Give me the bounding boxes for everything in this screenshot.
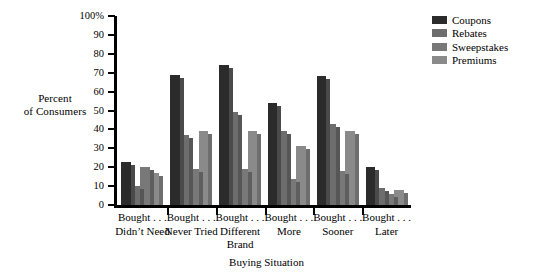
- bar: [219, 65, 229, 205]
- legend-swatch: [432, 16, 447, 24]
- y-axis-title-line2: of Consumers: [12, 105, 98, 118]
- legend-swatch: [432, 43, 447, 51]
- legend-label: Premiums: [452, 54, 497, 66]
- bar-chart: Percent of Consumers 0102030405060708090…: [0, 0, 533, 277]
- bar-side-face: [248, 172, 252, 205]
- y-axis-title-line1: Percent: [12, 92, 98, 105]
- bar-side-face: [229, 68, 233, 205]
- bar-side-face: [277, 106, 281, 205]
- bar-side-face: [394, 197, 398, 205]
- bar-side-face: [404, 193, 408, 205]
- bar: [366, 167, 376, 205]
- bar-group: [313, 16, 362, 205]
- bar-side-face: [345, 174, 349, 205]
- bar-side-face: [238, 115, 242, 205]
- y-axis-tick-label: 10: [94, 181, 105, 191]
- y-axis-tick-label: 90: [94, 30, 105, 40]
- bar-side-face: [375, 170, 379, 205]
- y-axis-title: Percent of Consumers: [12, 92, 98, 118]
- y-axis-tick-mark: [108, 185, 115, 187]
- legend-item: Coupons: [432, 13, 508, 27]
- bar-side-face: [199, 172, 203, 205]
- y-axis-tick-mark: [108, 34, 115, 36]
- x-axis-category-label-line: Bought . . .: [353, 211, 420, 225]
- bar: [317, 76, 327, 205]
- y-axis-tick-label: 100%: [80, 11, 105, 21]
- bar-side-face: [208, 134, 212, 205]
- bar-side-face: [355, 134, 359, 205]
- bar-side-face: [150, 170, 154, 205]
- plot-area: 0102030405060708090100%: [118, 16, 411, 205]
- bar-front-face: [121, 162, 131, 205]
- bar-side-face: [159, 176, 163, 205]
- legend-label: Rebates: [452, 27, 487, 39]
- bar-front-face: [317, 76, 327, 205]
- y-axis-tick-label: 60: [94, 87, 105, 97]
- bar-side-face: [257, 134, 261, 205]
- legend-label: Coupons: [452, 14, 491, 26]
- x-axis-category-label-line: Later: [353, 225, 420, 239]
- bar-group: [265, 16, 314, 205]
- bar: [121, 162, 131, 205]
- legend-item: Sweepstakes: [432, 40, 508, 54]
- y-axis-tick-mark: [108, 15, 115, 17]
- x-axis-title: Buying Situation: [0, 256, 533, 268]
- bar-side-face: [296, 182, 300, 205]
- legend: CouponsRebatesSweepstakesPremiums: [432, 13, 508, 67]
- y-axis-tick-label: 40: [94, 124, 105, 134]
- legend-swatch: [432, 56, 447, 64]
- legend-label: Sweepstakes: [452, 41, 508, 53]
- y-axis-tick-label: 20: [94, 162, 105, 172]
- bar-group: [216, 16, 265, 205]
- x-axis-category-label: Bought . . .Later: [353, 211, 420, 238]
- bar-group: [167, 16, 216, 205]
- y-axis-tick-mark: [108, 166, 115, 168]
- y-axis-tick-mark: [108, 110, 115, 112]
- bar-group: [118, 16, 167, 205]
- bar: [170, 75, 180, 205]
- y-axis-tick-mark: [108, 147, 115, 149]
- y-axis-tick-label: 70: [94, 68, 105, 78]
- y-axis-tick-mark: [108, 72, 115, 74]
- y-axis-tick-mark: [108, 204, 115, 206]
- bar-front-face: [268, 103, 278, 205]
- bar-side-face: [180, 78, 184, 205]
- bar-side-face: [306, 149, 310, 205]
- bar-side-face: [385, 191, 389, 205]
- bar-group: [362, 16, 411, 205]
- y-axis-tick-label: 0: [99, 200, 104, 210]
- bar-side-face: [336, 127, 340, 205]
- bar-side-face: [189, 138, 193, 205]
- legend-item: Premiums: [432, 54, 508, 68]
- legend-swatch: [432, 29, 447, 37]
- y-axis-tick-mark: [108, 91, 115, 93]
- bar: [268, 103, 278, 205]
- bar-side-face: [326, 79, 330, 205]
- y-axis-tick-mark: [108, 128, 115, 130]
- legend-item: Rebates: [432, 27, 508, 41]
- y-axis-tick-label: 80: [94, 49, 105, 59]
- bar-side-face: [287, 134, 291, 205]
- y-axis-tick-label: 50: [94, 106, 105, 116]
- x-axis-line: [114, 205, 411, 208]
- bar-front-face: [366, 167, 376, 205]
- bar-front-face: [170, 75, 180, 205]
- y-axis-tick-mark: [108, 53, 115, 55]
- bar-side-face: [131, 165, 135, 205]
- x-axis-category-label-line: Brand: [207, 238, 274, 252]
- y-axis-tick-label: 30: [94, 143, 105, 153]
- bar-side-face: [140, 189, 144, 205]
- bar-front-face: [219, 65, 229, 205]
